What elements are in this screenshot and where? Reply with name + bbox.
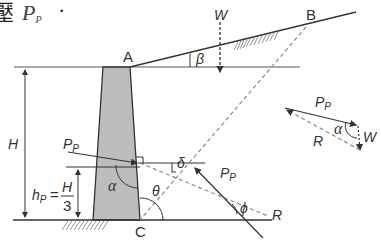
force-triangle: PP α W R [285, 94, 378, 150]
delta-arc [172, 163, 176, 172]
alpha-label: α [108, 177, 117, 194]
triangle-w-vector [358, 126, 360, 150]
point-b-label: B [306, 6, 316, 23]
theta-label: θ [152, 183, 160, 199]
pp-left-label: PP [63, 136, 79, 154]
triangle-r-label: R [313, 133, 323, 149]
delta-label: δ [177, 155, 185, 171]
heading: 壓 PP · [0, 0, 65, 25]
backfill-surface [130, 12, 356, 67]
retaining-wall-diagram: 壓 PP · β [0, 0, 381, 245]
retaining-wall [93, 67, 140, 220]
svg-text:3: 3 [63, 197, 71, 214]
surface-hatching [234, 32, 278, 50]
theta-arc [140, 198, 163, 220]
weight-label: W [214, 7, 229, 23]
failure-plane [140, 27, 306, 220]
triangle-w-label: W [363, 129, 378, 145]
reaction-label: R [272, 207, 282, 223]
point-c-label: C [135, 223, 146, 240]
svg-text:hP: hP [32, 187, 47, 205]
hp-label: hP = H 3 [32, 179, 74, 214]
pp-right-label: PP [220, 165, 236, 183]
svg-text:H: H [62, 179, 73, 195]
triangle-r-vector [287, 110, 360, 150]
svg-text:=: = [50, 186, 59, 203]
triangle-alpha-label: α [334, 120, 343, 137]
heading-symbol: PP [21, 0, 42, 25]
phi-label: ϕ [240, 200, 248, 216]
ground-hatching [62, 221, 108, 230]
heading-prefix-char: 壓 [0, 0, 14, 25]
height-label: H [8, 136, 19, 152]
heading-suffix: · [58, 0, 65, 23]
triangle-pp-label: PP [315, 94, 331, 112]
beta-label: β [195, 51, 204, 67]
point-a-label: A [123, 48, 133, 65]
